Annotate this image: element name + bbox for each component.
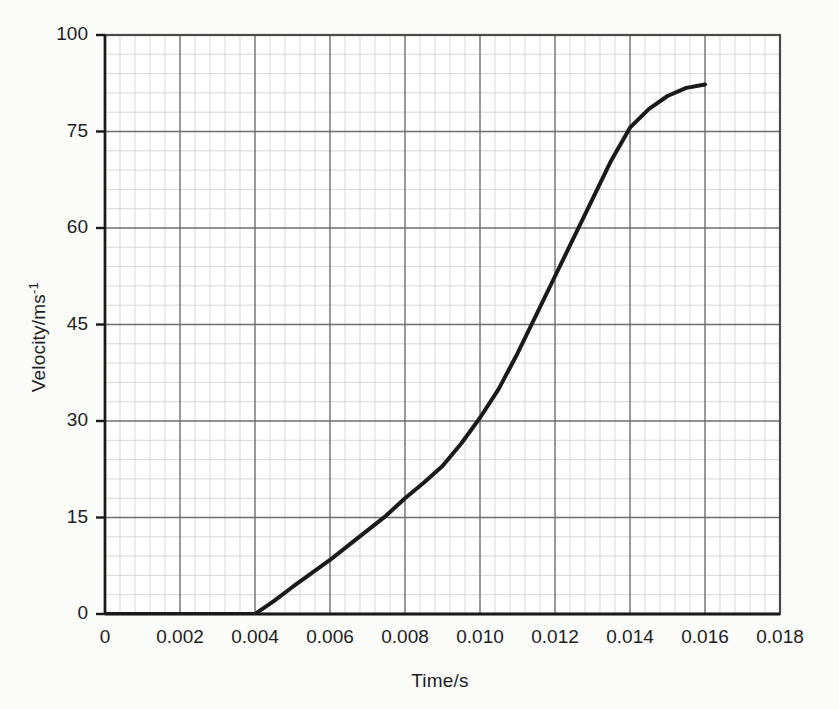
y-axis-label-base: Velocity/ms xyxy=(28,294,49,392)
y-tick-label: 15 xyxy=(10,506,88,528)
y-axis-label: Velocity/ms-1 xyxy=(26,237,50,437)
y-tick-marks xyxy=(96,35,105,614)
x-axis-label: Time/s xyxy=(340,670,540,692)
y-tick-label: 0 xyxy=(10,602,88,624)
x-tick-label: 0.018 xyxy=(735,626,825,648)
y-tick-label: 60 xyxy=(10,216,88,238)
y-axis-label-exponent: -1 xyxy=(26,282,41,294)
velocity-time-chart: 01530456075100 00.0020.0040.0060.0080.01… xyxy=(0,0,839,709)
y-tick-label: 75 xyxy=(10,120,88,142)
y-tick-label: 100 xyxy=(10,23,88,45)
plot-canvas xyxy=(0,0,839,709)
